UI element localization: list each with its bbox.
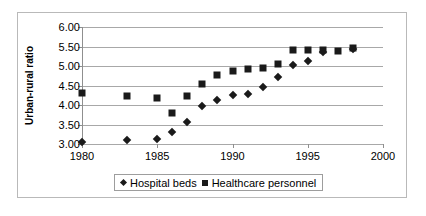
gridline xyxy=(82,105,383,106)
gridline xyxy=(82,86,383,87)
data-point xyxy=(349,45,356,52)
y-tick-label: 4.50 xyxy=(34,81,80,91)
x-tick-mark xyxy=(157,144,158,148)
data-point xyxy=(334,48,341,55)
y-tick-label: 4.00 xyxy=(34,100,80,110)
x-tick-mark xyxy=(308,144,309,148)
x-tick-label: 1990 xyxy=(210,150,256,162)
data-point xyxy=(319,47,326,54)
x-tick-label: 1995 xyxy=(285,150,331,162)
gridline xyxy=(82,27,383,28)
legend-item[interactable]: Healthcare personnel xyxy=(202,177,317,189)
y-tick-label: 6.00 xyxy=(34,22,80,32)
diamond-marker-icon xyxy=(120,179,127,186)
square-marker-icon xyxy=(202,180,208,186)
data-point xyxy=(169,109,176,116)
data-point xyxy=(244,66,251,73)
y-tick-label: 5.50 xyxy=(34,42,80,52)
data-point xyxy=(229,67,236,74)
gridline xyxy=(82,125,383,126)
data-point xyxy=(214,71,221,78)
x-tick-label: 1985 xyxy=(134,150,180,162)
y-tick-label: 3.50 xyxy=(34,120,80,130)
data-point xyxy=(259,64,266,71)
data-point xyxy=(199,80,206,87)
y-tick-label: 3.00 xyxy=(34,139,80,149)
chart-canvas: Urban-rural ratio 3.003.504.004.505.005.… xyxy=(0,0,426,216)
legend-label: Healthcare personnel xyxy=(212,177,317,189)
y-tick-label: 5.00 xyxy=(34,61,80,71)
x-tick-mark xyxy=(233,144,234,148)
data-point xyxy=(184,93,191,100)
data-point xyxy=(289,47,296,54)
data-point xyxy=(124,93,131,100)
data-point xyxy=(304,46,311,53)
data-point xyxy=(79,90,86,97)
x-tick-label: 2000 xyxy=(360,150,406,162)
x-tick-mark xyxy=(383,144,384,148)
legend-item[interactable]: Hospital beds xyxy=(121,177,197,189)
x-tick-label: 1980 xyxy=(59,150,105,162)
legend-label: Hospital beds xyxy=(130,177,197,189)
data-point xyxy=(154,95,161,102)
chart-legend: Hospital bedsHealthcare personnel xyxy=(114,174,323,191)
data-point xyxy=(274,61,281,68)
